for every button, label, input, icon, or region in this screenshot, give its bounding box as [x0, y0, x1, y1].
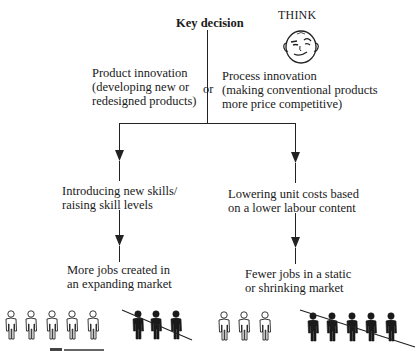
or-label: or	[203, 82, 213, 96]
left-step-skills: Introducing new skills/ raising skill le…	[62, 184, 177, 212]
think-label: THINK	[278, 8, 316, 23]
flow-connectors	[0, 0, 420, 351]
right-outcome-fewer-jobs: Fewer jobs in a static or shrinking mark…	[245, 267, 351, 295]
employed-person-icon-group-left	[6, 311, 99, 339]
process-innovation-option: Process innovation (making conventional …	[222, 69, 378, 111]
key-decision-title: Key decision	[176, 16, 244, 30]
people-figures	[0, 300, 420, 351]
product-innovation-option: Product innovation (developing new or re…	[92, 66, 196, 108]
thinking-face-icon	[275, 28, 327, 66]
employed-person-icon-group-right	[219, 312, 271, 340]
left-outcome-more-jobs: More jobs created in an expanding market	[67, 263, 172, 291]
right-step-costs: Lowering unit costs based on a lower lab…	[228, 187, 359, 215]
